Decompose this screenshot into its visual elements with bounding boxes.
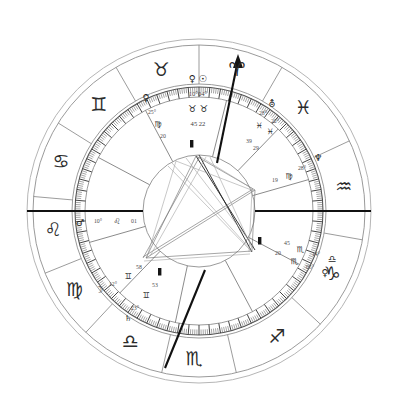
degree-tick: [302, 159, 311, 163]
sign-glyph-cancer: ♋: [52, 150, 69, 172]
degree-tick: [247, 99, 251, 108]
sign-glyph-libra: ♎: [121, 330, 138, 352]
degree-tick: [80, 175, 85, 177]
degree-tick: [312, 173, 317, 175]
degree-tick: [80, 246, 85, 248]
degree-tick: [88, 263, 93, 265]
degree-tick: [228, 326, 229, 331]
degree-tick: [77, 192, 82, 193]
degree-tick: [264, 310, 267, 315]
degree-tick: [175, 327, 176, 332]
lower-left-moon-gemini-group-item-1: 12°: [109, 281, 118, 287]
sign-glyph-aries: ♈: [228, 58, 245, 80]
degree-tick: [137, 310, 142, 319]
degree-tick: [238, 94, 240, 99]
degree-tick: [311, 171, 316, 173]
degree-tick: [317, 223, 322, 224]
degree-tick: [238, 323, 240, 328]
lower-left-moon-gemini-group-item-4: 53: [152, 282, 158, 288]
venus-sun-taurus-group-row-2: ♉ ♉: [188, 103, 208, 114]
upper-right-uranus-pisces-group-item-4: ♓: [266, 127, 273, 136]
degree-tick: [161, 93, 163, 98]
degree-tick: [90, 153, 95, 156]
degree-tick: [94, 145, 99, 148]
sign-glyph-leo: ♌: [45, 218, 62, 240]
degree-tick: [151, 320, 153, 325]
degree-tick: [298, 143, 303, 146]
degree-tick: [167, 91, 170, 101]
degree-tick: [88, 157, 93, 159]
degree-tick: [308, 257, 313, 259]
degree-tick: [85, 163, 90, 165]
degree-tick: [111, 292, 118, 299]
house-cusp-spoke-5: [175, 266, 187, 323]
cusp-marker-lower-left: [158, 268, 161, 276]
sign-divider-sagittarius: [292, 298, 321, 325]
degree-tick: [313, 221, 323, 222]
right-neptune-group-item-1: 28°: [298, 165, 307, 171]
degree-tick: [307, 259, 312, 261]
lower-right-scorpio-group: 4520♏♏14°05°♎♀: [275, 240, 336, 278]
right-neptune-group-item-0: ♆: [314, 152, 323, 163]
degree-tick: [309, 241, 319, 244]
degree-tick: [219, 89, 221, 99]
degree-tick: [78, 183, 83, 184]
degree-tick: [315, 185, 320, 186]
degree-tick: [153, 321, 155, 326]
upper-left-venus-group-item-1: 25°: [148, 109, 157, 115]
degree-tick: [306, 157, 311, 159]
degree-tick: [147, 314, 151, 323]
degree-tick: [314, 238, 319, 239]
degree-tick: [262, 311, 265, 316]
degree-tick: [315, 234, 320, 235]
degree-tick: [83, 167, 88, 169]
upper-right-uranus-pisces-group-item-3: ♓: [255, 121, 262, 130]
degree-tick: [87, 159, 96, 163]
upper-left-venus-group: ♀25°♍20: [143, 92, 166, 140]
degree-tick: [79, 179, 89, 182]
upper-right-uranus-pisces-group: ⛢28°22°♓♓3929: [246, 98, 280, 152]
cusp-marker-top: [190, 140, 193, 148]
degree-tick: [312, 246, 317, 248]
degree-tick: [298, 149, 307, 154]
degree-tick: [82, 171, 87, 173]
degree-tick: [131, 310, 134, 315]
upper-right-uranus-pisces-group-item-6: 29: [253, 145, 259, 151]
upper-left-venus-group-item-3: 20: [160, 133, 166, 139]
lower-left-moon-gemini-group-item-5: ♊: [142, 291, 149, 300]
degree-tick: [141, 316, 144, 321]
degree-tick: [84, 165, 89, 167]
degree-tick: [311, 189, 321, 191]
degree-tick: [86, 161, 91, 163]
degree-tick: [264, 304, 270, 312]
venus-sun-taurus-group-row-0: ♀ ☉: [189, 73, 208, 84]
degree-tick: [241, 95, 243, 100]
sign-divider-capricorn: [324, 233, 362, 240]
upper-right-uranus-pisces-group-item-5: 39: [246, 138, 252, 144]
lower-left-moon-gemini-group-item-2: ♊: [124, 272, 131, 281]
degree-tick: [309, 165, 314, 167]
degree-tick: [78, 185, 83, 186]
sign-glyph-aquarius: ♒: [335, 175, 352, 197]
degree-tick: [253, 101, 255, 106]
lower-right-scorpio-group-item-0: 45: [284, 240, 290, 246]
lower-left-moon-gemini-group-item-6: 23°: [131, 305, 140, 311]
degree-tick: [155, 95, 157, 100]
degree-tick: [95, 143, 100, 146]
degree-tick: [314, 240, 319, 241]
aspect-line-16: [186, 158, 254, 247]
lower-right-scorpio-group-item-5: 05°: [306, 264, 315, 270]
main-axes: [27, 54, 371, 368]
degree-tick: [234, 324, 236, 329]
right-neptune-group-item-3: 19: [272, 177, 278, 183]
degree-tick: [77, 187, 82, 188]
left-mars-leo-group-item-3: 01: [131, 218, 137, 224]
venus-sun-taurus-group: ♀ ☉10°04°♉ ♉45 22: [188, 73, 208, 127]
degree-tick: [173, 90, 174, 95]
degree-tick: [165, 325, 167, 330]
degree-tick: [209, 87, 210, 97]
degree-tick: [218, 328, 219, 333]
degree-tick: [286, 284, 294, 290]
degree-tick: [236, 324, 238, 329]
left-mars-leo-group-item-2: ♌: [113, 217, 120, 226]
